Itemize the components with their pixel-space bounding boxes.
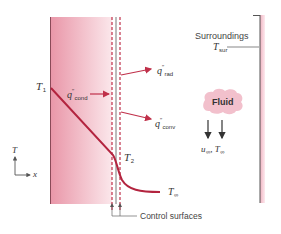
label-t-inf: T∞ bbox=[168, 187, 178, 198]
wall bbox=[50, 17, 112, 204]
q-conv-arrow bbox=[121, 112, 151, 119]
axis-label-t: T bbox=[12, 146, 17, 155]
control-surfaces bbox=[110, 17, 137, 216]
axis-indicator bbox=[15, 157, 30, 175]
label-fluid: Fluid bbox=[212, 97, 234, 107]
surroundings-wall bbox=[253, 15, 265, 203]
label-t2: T2 bbox=[124, 152, 134, 164]
label-t-sur: Tsur bbox=[213, 42, 227, 53]
axis-label-x: x bbox=[33, 170, 37, 179]
label-t1: T1 bbox=[36, 81, 46, 93]
q-rad-arrow bbox=[121, 69, 151, 75]
label-control-surfaces: Control surfaces bbox=[140, 212, 202, 221]
label-surroundings: Surroundings bbox=[195, 32, 249, 41]
label-q-cond: q″cond bbox=[67, 88, 88, 101]
label-q-conv: q″conv bbox=[155, 117, 175, 130]
label-q-rad: q″rad bbox=[157, 64, 173, 77]
label-u-inf-t-inf: u∞, T∞ bbox=[201, 145, 225, 155]
